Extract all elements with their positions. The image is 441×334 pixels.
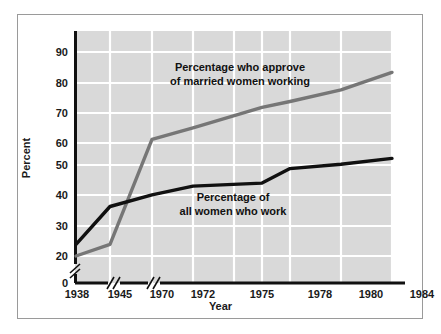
x-tick-1938: 1938	[56, 288, 98, 300]
annotation-work-line2: all women who work	[158, 204, 308, 218]
y-tick-30: 30	[38, 220, 68, 232]
y-tick-70: 70	[38, 107, 68, 119]
y-tick-50: 50	[38, 159, 68, 171]
x-tick-1978: 1978	[299, 288, 341, 300]
annotation-approve-line2: of married women working	[150, 74, 330, 88]
y-tick-40: 40	[38, 189, 68, 201]
x-tick-1945: 1945	[99, 288, 141, 300]
x-tick-1980: 1980	[350, 288, 392, 300]
chart-figure: 90 80 70 60 50 40 30 20 0 1938 1945 1970…	[0, 0, 441, 334]
x-tick-1984: 1984	[401, 288, 441, 300]
y-tick-80: 80	[38, 77, 68, 89]
y-tick-60: 60	[38, 137, 68, 149]
annotation-work-line1: Percentage of	[158, 190, 308, 204]
x-axis-label: Year	[0, 300, 441, 312]
x-tick-1970: 1970	[141, 288, 183, 300]
annotation-work: Percentage of all women who work	[158, 190, 308, 218]
y-tick-20: 20	[38, 250, 68, 262]
x-tick-1972: 1972	[182, 288, 224, 300]
y-axis-label: Percent	[20, 123, 32, 193]
annotation-approve: Percentage who approve of married women …	[150, 60, 330, 88]
annotation-approve-line1: Percentage who approve	[150, 60, 330, 74]
x-tick-1975: 1975	[241, 288, 283, 300]
y-tick-90: 90	[38, 46, 68, 58]
